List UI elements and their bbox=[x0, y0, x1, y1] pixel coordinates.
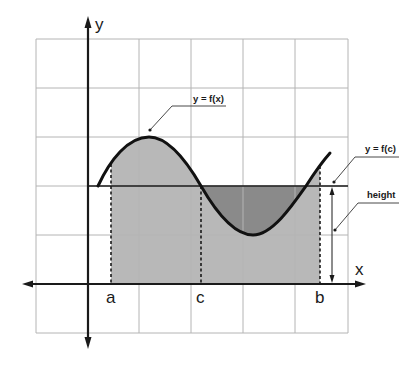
y-axis-arrow-down-icon bbox=[85, 337, 92, 349]
height-callout-leader bbox=[335, 203, 399, 230]
x-axis-arrow-left-icon bbox=[22, 281, 33, 288]
y-axis-arrow-up-icon bbox=[85, 16, 92, 28]
height-callout-label: height bbox=[367, 189, 396, 200]
curve-callout-leader bbox=[150, 106, 226, 130]
mean-line-callout-label: y = f(c) bbox=[365, 143, 396, 154]
curve-callout-label: y = f(x) bbox=[193, 93, 224, 104]
x-axis-label: x bbox=[355, 260, 364, 279]
mean-value-theorem-diagram: y x a c b y = f(x) y = f(c) height bbox=[0, 0, 417, 365]
point-a-label: a bbox=[106, 288, 116, 307]
x-axis-arrow-right-icon bbox=[355, 281, 366, 288]
point-c-label: c bbox=[196, 288, 205, 307]
height-arrow-down-icon bbox=[330, 275, 335, 283]
height-arrow-up-icon bbox=[330, 187, 335, 195]
y-axis bbox=[85, 16, 92, 349]
y-axis-label: y bbox=[95, 15, 104, 34]
point-b-label: b bbox=[315, 288, 324, 307]
mean-line-callout-leader bbox=[334, 157, 399, 182]
